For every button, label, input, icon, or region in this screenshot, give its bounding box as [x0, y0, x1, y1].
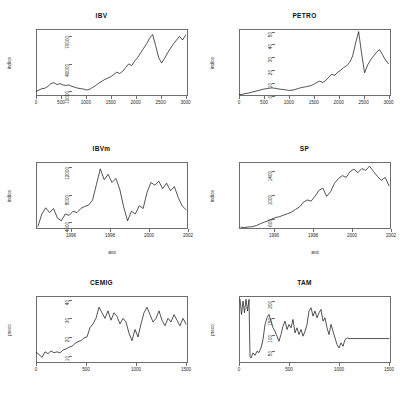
y-axis-label: preco — [7, 324, 12, 336]
x-tick-mark — [314, 96, 315, 99]
y-axis: 50100150200 — [239, 296, 275, 363]
x-tick-label: 500 — [57, 100, 65, 105]
plot-area: 10203040050010001500 — [36, 296, 188, 363]
y-tick-label: 20 — [268, 70, 273, 75]
x-tick-label: 0 — [238, 100, 241, 105]
plot-area: 50100150200050010001500 — [239, 296, 391, 363]
y-tick-label: 600 — [268, 219, 273, 227]
x-tick-label: 2002 — [386, 233, 396, 238]
x-tick-label: 500 — [82, 367, 90, 372]
y-tick-label: 10 — [65, 356, 70, 361]
x-tick-mark — [339, 363, 340, 366]
y-axis: 01020304050 — [239, 29, 275, 96]
panel-tam: TAM50100150200050010001500preco — [203, 267, 406, 400]
x-tick-label: 1000 — [81, 100, 91, 105]
x-tick-label: 1500 — [384, 367, 394, 372]
x-tick-mark — [289, 363, 290, 366]
panel-title: TAM — [203, 279, 406, 287]
y-tick-label: 70000 — [65, 36, 70, 49]
y-tick-label: 10 — [268, 83, 273, 88]
x-tick-mark — [274, 229, 275, 232]
x-tick-label: 1500 — [106, 100, 116, 105]
y-axis-label: indice — [7, 56, 12, 68]
x-tick-mark — [36, 363, 37, 366]
x-tick-label: 2000 — [131, 100, 141, 105]
x-tick-mark — [110, 229, 111, 232]
x-tick-mark — [389, 96, 390, 99]
y-axis: 10203040 — [36, 296, 72, 363]
x-tick-mark — [239, 96, 240, 99]
x-axis: 050010001500200025003000 — [36, 96, 188, 114]
x-axis: 1996199820002002 — [36, 229, 188, 247]
y-tick-label: 20 — [65, 337, 70, 342]
x-tick-label: 1000 — [284, 100, 294, 105]
x-tick-label: 1996 — [66, 233, 76, 238]
x-axis-label: ano — [36, 250, 188, 255]
x-tick-mark — [61, 96, 62, 99]
x-tick-label: 2500 — [155, 100, 165, 105]
x-tick-label: 2000 — [347, 233, 357, 238]
y-tick-label: 1400 — [268, 171, 273, 181]
y-axis: 60010001400 — [239, 162, 275, 229]
x-tick-mark — [239, 363, 240, 366]
y-tick-label: 40000 — [65, 64, 70, 77]
panel-title: PETRO — [203, 12, 406, 20]
x-tick-label: 2000 — [334, 100, 344, 105]
panel-title: IBV — [0, 12, 203, 20]
x-tick-mark — [391, 229, 392, 232]
x-tick-mark — [86, 363, 87, 366]
y-tick-label: 12000 — [65, 167, 70, 180]
x-tick-label: 500 — [285, 367, 293, 372]
y-tick-label: 8000 — [65, 195, 70, 205]
x-tick-label: 1500 — [181, 367, 191, 372]
y-tick-label: 40 — [268, 44, 273, 49]
x-tick-mark — [71, 229, 72, 232]
x-axis: 1996199820002002 — [239, 229, 391, 247]
x-tick-mark — [339, 96, 340, 99]
y-tick-label: 50 — [268, 32, 273, 37]
x-tick-label: 1996 — [269, 233, 279, 238]
x-tick-mark — [289, 96, 290, 99]
x-tick-label: 0 — [238, 367, 241, 372]
x-tick-label: 1998 — [308, 233, 318, 238]
y-axis-label: preco — [210, 324, 215, 336]
x-tick-mark — [188, 229, 189, 232]
x-tick-mark — [111, 96, 112, 99]
x-tick-mark — [313, 229, 314, 232]
panel-ibv: IBV1000040000700000500100015002000250030… — [0, 0, 203, 133]
y-tick-label: 150 — [268, 318, 273, 326]
y-axis: 100004000070000 — [36, 29, 72, 96]
plot-area: 40008000120001996199820002002 — [36, 162, 188, 229]
panel-title: IBVm — [0, 145, 203, 153]
y-tick-label: 30 — [65, 318, 70, 323]
x-tick-label: 3000 — [383, 100, 393, 105]
x-axis: 050010001500 — [239, 363, 391, 381]
x-tick-mark — [264, 96, 265, 99]
panel-sp: SP600100014001996199820002002indiceano — [203, 133, 406, 267]
x-tick-mark — [136, 96, 137, 99]
y-axis-label: indice — [210, 189, 215, 201]
x-axis-label: ano — [239, 250, 391, 255]
panel-petro: PETRO01020304050050010001500200025003000… — [203, 0, 406, 133]
x-tick-mark — [86, 96, 87, 99]
x-tick-label: 500 — [260, 100, 268, 105]
x-tick-label: 2000 — [144, 233, 154, 238]
y-axis-label: indice — [210, 56, 215, 68]
y-tick-label: 100 — [268, 335, 273, 343]
x-tick-mark — [389, 363, 390, 366]
x-tick-mark — [364, 96, 365, 99]
x-tick-label: 0 — [35, 100, 38, 105]
x-tick-label: 1000 — [334, 367, 344, 372]
x-tick-label: 0 — [35, 367, 38, 372]
y-tick-label: 50 — [268, 351, 273, 356]
x-tick-mark — [186, 96, 187, 99]
plot-area: 100004000070000050010001500200025003000 — [36, 29, 188, 96]
plot-area: 01020304050050010001500200025003000 — [239, 29, 391, 96]
y-axis-label: indice — [7, 189, 12, 201]
x-tick-mark — [149, 229, 150, 232]
figure-grid: IBV1000040000700000500100015002000250030… — [0, 0, 406, 400]
x-tick-mark — [352, 229, 353, 232]
x-tick-mark — [161, 96, 162, 99]
x-tick-label: 2002 — [183, 233, 193, 238]
x-tick-label: 1998 — [105, 233, 115, 238]
